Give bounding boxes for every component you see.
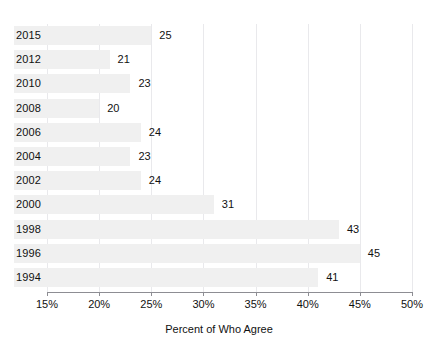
x-axis-tick-label: 40% — [285, 297, 331, 311]
bar-value-label: 24 — [149, 171, 161, 190]
x-axis-tick — [412, 292, 413, 296]
x-axis-tick — [99, 292, 100, 296]
bar-row: 199843 — [14, 220, 426, 239]
bar-value-label: 25 — [159, 26, 171, 45]
bar-row: 201023 — [14, 74, 426, 93]
x-axis-line — [47, 292, 412, 293]
bar-value-label: 31 — [222, 195, 234, 214]
bar-category-label: 2004 — [16, 147, 41, 166]
bar-category-label: 1994 — [16, 268, 41, 287]
bar-value-label: 21 — [118, 50, 130, 69]
bar-value-label: 43 — [347, 220, 359, 239]
bar — [14, 244, 360, 263]
x-axis-tick-label: 50% — [389, 297, 435, 311]
bar-row: 199645 — [14, 244, 426, 263]
bar-row: 200031 — [14, 195, 426, 214]
bar-category-label: 2012 — [16, 50, 41, 69]
x-axis-title: Percent of Who Agree — [0, 322, 438, 336]
bar-value-label: 23 — [138, 74, 150, 93]
bar-category-label: 2010 — [16, 74, 41, 93]
bar-row: 200624 — [14, 123, 426, 142]
bar-value-label: 45 — [368, 244, 380, 263]
x-axis-tick — [256, 292, 257, 296]
plot-area: 2015252012212010232008202006242004232002… — [14, 24, 426, 292]
x-axis-tick — [308, 292, 309, 296]
x-axis-tick — [360, 292, 361, 296]
bar-category-label: 2000 — [16, 195, 41, 214]
x-axis-tick-label: 15% — [24, 297, 70, 311]
bar — [14, 268, 318, 287]
x-axis-tick-label: 45% — [337, 297, 383, 311]
chart-title — [0, 0, 438, 2]
bar-value-label: 24 — [149, 123, 161, 142]
x-axis-tick-label: 30% — [180, 297, 226, 311]
bar-row: 199441 — [14, 268, 426, 287]
bar-value-label: 41 — [326, 268, 338, 287]
bar-row: 201221 — [14, 50, 426, 69]
bar-row: 200224 — [14, 171, 426, 190]
x-axis-tick — [47, 292, 48, 296]
bar-chart: 2015252012212010232008202006242004232002… — [0, 0, 438, 344]
bar-value-label: 20 — [107, 99, 119, 118]
bar-category-label: 2006 — [16, 123, 41, 142]
bar — [14, 220, 339, 239]
bar-row: 200423 — [14, 147, 426, 166]
bar-category-label: 2002 — [16, 171, 41, 190]
bar-value-label: 23 — [138, 147, 150, 166]
x-axis-tick — [203, 292, 204, 296]
bar-category-label: 1998 — [16, 220, 41, 239]
x-axis-tick-label: 35% — [233, 297, 279, 311]
bar-category-label: 2008 — [16, 99, 41, 118]
bar-row: 201525 — [14, 26, 426, 45]
bar-category-label: 2015 — [16, 26, 41, 45]
bar-row: 200820 — [14, 99, 426, 118]
x-axis-tick — [151, 292, 152, 296]
x-axis-tick-label: 20% — [76, 297, 122, 311]
x-axis-tick-label: 25% — [128, 297, 174, 311]
bar — [14, 195, 214, 214]
bar-category-label: 1996 — [16, 244, 41, 263]
